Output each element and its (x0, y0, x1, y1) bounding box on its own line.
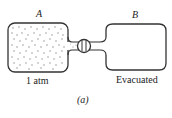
figure-caption: (a) (77, 95, 89, 105)
container-b-label: B (132, 10, 138, 20)
container-b (106, 24, 166, 70)
stopcock-valve (78, 40, 91, 53)
container-a-pressure-label: 1 atm (26, 76, 49, 86)
tube-right (89, 37, 106, 55)
container-a-label: A (36, 9, 42, 19)
container-b-pressure-label: Evacuated (116, 75, 158, 85)
